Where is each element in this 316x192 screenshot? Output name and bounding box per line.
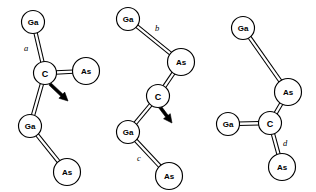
bond-core [238, 123, 259, 124]
dimension-label-c: c [137, 153, 141, 163]
bond-a-c-a-as-right [55, 72, 73, 73]
bond-core [164, 72, 174, 87]
atom-circle-b-as-up [168, 49, 195, 76]
atom-arsenic-a-as-right: As [73, 58, 100, 85]
dimension-label-b: b [155, 23, 159, 33]
bond-a-c-a-ga-low [33, 83, 42, 116]
bond-b-c-b-ga-low [135, 104, 152, 124]
molecular-structure-canvas: GaCAsGaAsGaAsCGaAsGaAsCGaAs abcd [0, 0, 316, 192]
atom-circle-a-as-bot [54, 159, 81, 186]
dimension-label-d: d [283, 138, 288, 148]
bond-core [55, 72, 73, 73]
atom-circle-a-as-right [73, 58, 100, 85]
bond-b-as-up-b-c [164, 72, 174, 87]
atom-arsenic-b-as-up: As [168, 49, 195, 76]
atom-gallium-a-ga-low: Ga [19, 115, 42, 138]
atom-gallium-b-ga-top: Ga [117, 8, 140, 31]
displacement-arrow-panel-a [49, 83, 68, 101]
bond-core [37, 134, 60, 162]
atom-arsenic-c-as-bot: As [269, 154, 296, 181]
dimension-label-a: a [24, 43, 28, 53]
atom-circle-b-ga-low [117, 121, 140, 144]
bond-c-as-up-c-c [275, 103, 281, 114]
atom-gallium-c-ga-top: Ga [232, 17, 255, 40]
atom-circle-c-c [259, 112, 282, 135]
atom-circle-a-ga-low [19, 115, 42, 138]
bond-c-ga-left-c-c [238, 123, 259, 124]
atom-gallium-a-ga-top: Ga [22, 11, 45, 34]
atom-arsenic-c-as-up: As [275, 79, 302, 106]
molecular-diagram-figure: GaCAsGaAsGaAsCGaAsGaAsCGaAs abcd [0, 0, 316, 192]
atom-carbon-b-c: C [147, 85, 170, 108]
bond-c-ga-top-c-as-up [249, 37, 281, 82]
atom-carbon-c-c: C [259, 112, 282, 135]
bond-core [249, 37, 281, 82]
atom-circle-a-ga-top [22, 11, 45, 34]
atom-carbon-a-c: C [34, 62, 57, 85]
atom-circle-c-ga-top [232, 17, 255, 40]
bond-b-ga-top-b-as-up [136, 26, 171, 55]
bond-a-ga-low-a-as-bot [37, 134, 60, 162]
displacement-arrow-panel-b [159, 106, 172, 123]
atom-circle-a-c [34, 62, 57, 85]
atom-arsenic-b-as-bot: As [156, 163, 183, 190]
atom-circle-b-ga-top [117, 8, 140, 31]
bond-core [136, 26, 171, 55]
atom-circle-c-as-bot [269, 154, 296, 181]
atom-circle-c-ga-left [217, 113, 240, 136]
atom-circle-b-c [147, 85, 170, 108]
atom-circle-b-as-bot [156, 163, 183, 190]
bond-c-c-c-as-bot [273, 133, 279, 155]
atom-gallium-c-ga-left: Ga [217, 113, 240, 136]
atom-circle-c-as-up [275, 79, 302, 106]
bond-core [35, 32, 42, 63]
bond-a-ga-top-a-c [35, 32, 42, 63]
bond-core [33, 83, 42, 116]
atom-gallium-b-ga-low: Ga [117, 121, 140, 144]
bond-core [135, 104, 152, 124]
atom-arsenic-a-as-bot: As [54, 159, 81, 186]
